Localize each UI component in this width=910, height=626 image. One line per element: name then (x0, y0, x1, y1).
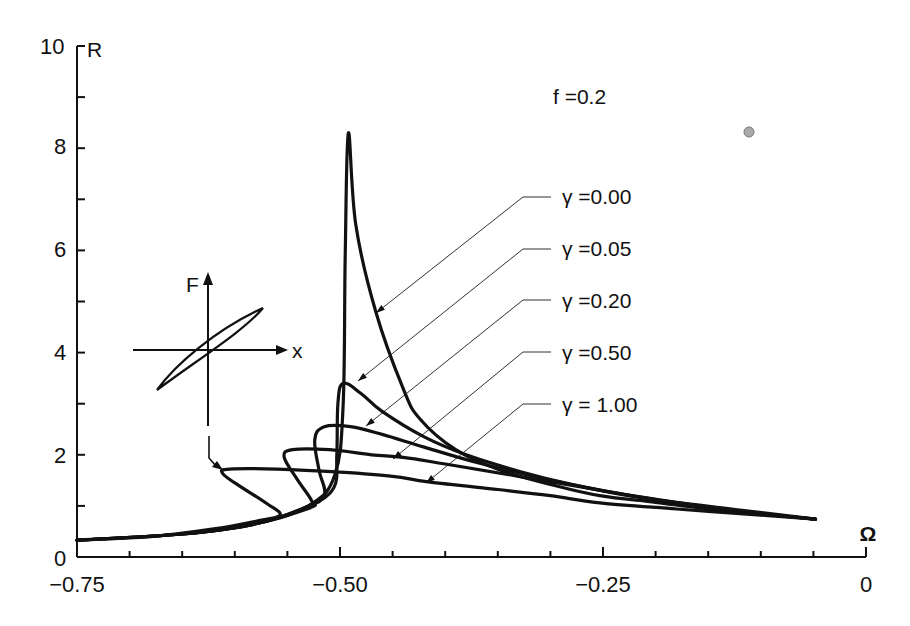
inset-pointer (209, 436, 216, 466)
y-axis-label: R (87, 38, 102, 61)
response-curves (77, 133, 816, 540)
x-ticks (77, 547, 866, 557)
scan-speck (744, 127, 754, 137)
f-annotation: f =0.2 (553, 85, 606, 108)
legend-gamma-005: γ =0.05 (562, 237, 631, 260)
y-ticks (77, 46, 85, 557)
leader-line (358, 249, 551, 381)
y-tick-label-4: 4 (54, 340, 66, 365)
y-tick-label-8: 8 (54, 134, 66, 159)
inset-x-label: x (292, 339, 303, 362)
hysteresis-inset: F x (133, 272, 303, 470)
legend-gamma-100: γ = 1.00 (562, 393, 637, 416)
curve-000 (77, 133, 816, 540)
inset-f-arrow-icon (203, 272, 213, 285)
y-tick-label-10: 10 (40, 34, 64, 59)
y-tick-label-0: 0 (54, 546, 66, 571)
legend-gamma-050: γ =0.50 (562, 341, 631, 364)
x-tick-label-0: 0 (860, 572, 872, 597)
legend-gamma-000: γ =0.00 (562, 185, 631, 208)
curve-005 (77, 383, 816, 540)
y-tick-label-6: 6 (54, 237, 66, 262)
x-axis-label: Ω (860, 522, 877, 545)
x-tick-label-neg075: −0.75 (49, 572, 105, 597)
axes (77, 46, 866, 557)
x-tick-label-neg025: −0.25 (575, 572, 631, 597)
inset-f-label: F (186, 273, 199, 296)
leader-line (376, 197, 551, 313)
frequency-response-chart: 10 8 6 4 2 0 −0.75 −0.50 −0.25 0 R Ω f =… (0, 0, 910, 626)
curve-050 (77, 449, 816, 540)
leader-arrow-icon (358, 373, 367, 381)
legend-leaders (358, 197, 551, 483)
x-tick-label-neg050: −0.50 (312, 572, 368, 597)
y-tick-label-2: 2 (54, 443, 66, 468)
inset-x-arrow-icon (276, 345, 288, 355)
leader-line (393, 352, 551, 459)
legend-gamma-020: γ =0.20 (562, 289, 631, 312)
leader-arrow-icon (366, 418, 375, 426)
